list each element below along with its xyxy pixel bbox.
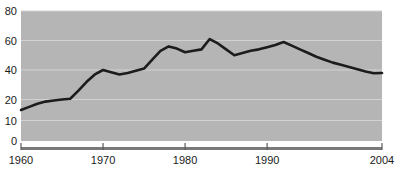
x-tick-label-1970: 1970	[91, 154, 115, 166]
x-axis-tick-labels: 19601970198019902004	[9, 154, 394, 166]
y-tick-label-0: 0	[11, 135, 17, 147]
y-tick-label-10: 10	[5, 115, 17, 127]
y-tick-label-60: 60	[5, 35, 17, 47]
x-tick-label-1980: 1980	[173, 154, 197, 166]
y-tick-label-20: 20	[5, 94, 17, 106]
line-chart-plot: 01020406080 19601970198019902004	[0, 0, 395, 169]
y-tick-label-40: 40	[5, 64, 17, 76]
y-axis-tick-labels: 01020406080	[5, 5, 17, 147]
x-tick-label-2004: 2004	[370, 154, 394, 166]
x-tick-label-1960: 1960	[9, 154, 33, 166]
y-tick-label-80: 80	[5, 5, 17, 17]
plot-background	[21, 11, 382, 141]
chart-container: 01020406080 19601970198019902004	[0, 0, 395, 169]
x-tick-label-1990: 1990	[255, 154, 279, 166]
